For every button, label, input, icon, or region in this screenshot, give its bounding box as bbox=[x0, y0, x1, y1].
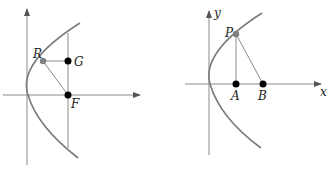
point-B bbox=[260, 81, 267, 88]
point-G bbox=[65, 58, 72, 65]
label-F: F bbox=[70, 97, 80, 111]
label-P: P bbox=[224, 26, 234, 40]
right-diagram: P A B y x bbox=[185, 6, 327, 155]
left-parabola bbox=[26, 23, 80, 158]
label-y-axis: y bbox=[213, 6, 221, 20]
diagram-canvas: R G F P A B y x bbox=[0, 0, 332, 174]
left-diagram: R G F bbox=[3, 9, 140, 165]
point-P bbox=[233, 31, 239, 37]
label-B: B bbox=[257, 89, 267, 103]
label-A: A bbox=[230, 89, 240, 103]
label-R: R bbox=[32, 47, 42, 61]
label-x-axis: x bbox=[320, 85, 327, 99]
label-G: G bbox=[74, 55, 84, 69]
segment-RF bbox=[43, 61, 68, 95]
point-A bbox=[233, 81, 240, 88]
segment-PB bbox=[236, 34, 263, 84]
